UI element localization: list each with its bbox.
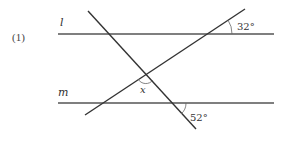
angle-label-52: 52° [190, 112, 208, 123]
angle-label-x: x [140, 84, 146, 95]
transversal-descending [88, 11, 196, 129]
transversal-ascending [85, 9, 245, 115]
line-l-label: l [60, 16, 64, 29]
angle-arc-32 [228, 20, 232, 34]
line-m-label: m [58, 86, 68, 99]
angle-label-32: 32° [237, 21, 255, 32]
angle-arc-52 [181, 103, 186, 114]
problem-number: (1) [12, 31, 25, 44]
parallel-lines-diagram: (1) l m 32° 52° x [0, 0, 290, 141]
